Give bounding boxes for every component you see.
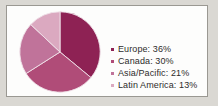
legend-item-label: Latin America: 13% bbox=[118, 79, 197, 91]
legend-marker-icon bbox=[111, 48, 114, 51]
chart-figure-frame: Europe: 36%Canada: 30%Asia/Pacific: 21%L… bbox=[6, 5, 208, 97]
legend-marker-icon bbox=[111, 84, 114, 87]
legend-item[interactable]: Latin America: 13% bbox=[110, 79, 208, 91]
pie-chart-area bbox=[19, 11, 101, 93]
legend-item-label: Europe: 36% bbox=[118, 43, 171, 55]
chart-legend: Europe: 36%Canada: 30%Asia/Pacific: 21%L… bbox=[110, 43, 208, 91]
legend-item[interactable]: Europe: 36% bbox=[110, 43, 208, 55]
legend-marker-icon bbox=[111, 60, 114, 63]
legend-item-label: Asia/Pacific: 21% bbox=[118, 67, 189, 79]
legend-marker-icon bbox=[111, 72, 114, 75]
legend-item[interactable]: Canada: 30% bbox=[110, 55, 208, 67]
pie-slice-group bbox=[20, 12, 100, 92]
legend-item-label: Canada: 30% bbox=[118, 55, 174, 67]
legend-item[interactable]: Asia/Pacific: 21% bbox=[110, 67, 208, 79]
pie-chart bbox=[19, 11, 101, 93]
